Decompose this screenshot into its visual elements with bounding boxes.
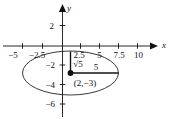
semi-major-axis-label: 5 [94, 62, 99, 72]
y-tick-label--4: −4 [45, 80, 55, 90]
coordinate-plane-svg: −5 −2.5 2.5 5 7.5 10 x 2 −2 −4 −6 y √5 5… [0, 0, 171, 119]
center-point-label: (2,−3) [74, 78, 96, 88]
y-axis-arrowhead [59, 4, 66, 12]
x-axis-arrowhead [150, 42, 158, 49]
x-tick-label-7.5: 7.5 [113, 50, 125, 60]
semi-minor-axis-label: √5 [73, 59, 83, 69]
x-tick-label-5: 5 [97, 50, 102, 60]
center-point-marker [68, 70, 74, 76]
x-tick-label--2.5: −2.5 [29, 50, 46, 60]
x-axis-label: x [161, 40, 166, 50]
x-tick-label-10: 10 [134, 50, 144, 60]
y-tick-label--6: −6 [45, 99, 55, 109]
x-tick-label--5: −5 [8, 50, 18, 60]
y-axis-label: y [66, 3, 71, 13]
y-tick-label-2: 2 [50, 21, 55, 31]
y-tick-label--2: −2 [45, 60, 55, 70]
ellipse-figure: −5 −2.5 2.5 5 7.5 10 x 2 −2 −4 −6 y √5 5… [0, 0, 171, 119]
